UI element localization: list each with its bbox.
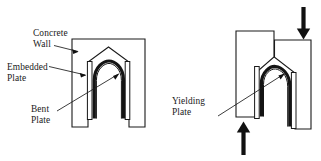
embedded-plate-right-panel-right-leg: [291, 73, 296, 129]
label-concrete-wall: Concrete Wall: [33, 28, 68, 51]
embedded-plate-right-leg: [125, 62, 130, 120]
bent-plate-left: [94, 61, 123, 119]
label-embedded-plate: Embedded Plate: [7, 62, 48, 85]
label-yielding-plate: Yielding Plate: [172, 96, 205, 119]
deformed-assembly: [218, 7, 311, 155]
figure-root: Concrete Wall Embedded Plate Bent Plate …: [0, 0, 321, 161]
concrete-wall-outline-left: [72, 39, 145, 127]
bent-plate-inner-edge-right: [264, 69, 288, 127]
diagram-canvas: [0, 0, 321, 161]
undeformed-assembly: [49, 39, 145, 127]
label-bent-plate: Bent Plate: [31, 104, 50, 127]
upward-load-arrow: [237, 122, 250, 156]
downward-load-arrow: [297, 7, 310, 40]
bent-plate-inner-edge-left: [96, 63, 121, 118]
